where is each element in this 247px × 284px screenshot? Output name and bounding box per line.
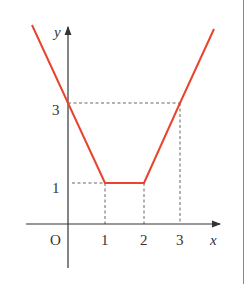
- x-tick-1: 1: [101, 232, 109, 248]
- x-tick-3: 3: [176, 232, 184, 248]
- piecewise-graph: y x O 1 2 3 3 1: [0, 0, 247, 284]
- x-tick-2: 2: [140, 232, 148, 248]
- y-axis-label: y: [52, 24, 61, 40]
- y-tick-3: 3: [52, 102, 60, 118]
- origin-label: O: [50, 232, 61, 248]
- guide-lines: [68, 103, 180, 224]
- y-tick-1: 1: [52, 180, 60, 196]
- x-axis-label: x: [209, 232, 217, 248]
- frame-border: [243, 0, 244, 284]
